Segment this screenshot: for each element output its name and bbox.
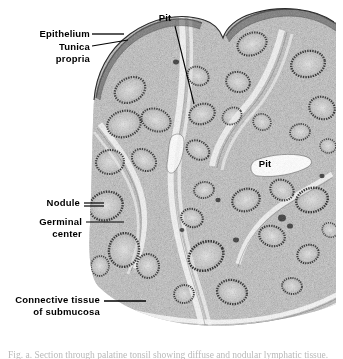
histology-figure: Epithelium Tunica propria Pit Pit Nodule… [0,0,343,359]
label-of-submucosa: of submucosa [0,306,100,318]
label-tunica: Tunica [0,41,90,53]
label-pit-right: Pit [250,158,280,170]
label-connective-tissue: Connective tissue [0,294,100,306]
label-nodule: Nodule [0,197,80,209]
label-germinal: Germinal [0,216,82,228]
label-center: center [0,228,82,240]
figure-caption: Fig. a. Section through palatine tonsil … [8,350,338,359]
label-epithelium: Epithelium [0,28,90,40]
label-pit-top: Pit [150,12,180,24]
label-propria: propria [0,53,90,65]
micrograph-image [86,4,336,342]
